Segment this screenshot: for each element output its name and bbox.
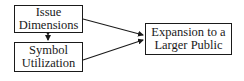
node-issue-dimensions: Issue Dimensions — [14, 5, 83, 33]
node-label-line: Utilization — [22, 57, 75, 70]
arrow-symbol-to-expansion — [83, 40, 143, 60]
node-label-line: Dimensions — [19, 19, 79, 32]
node-symbol-utilization: Symbol Utilization — [14, 42, 83, 72]
node-expansion-larger-public: Expansion to a Larger Public — [145, 23, 232, 55]
arrow-issue-to-expansion — [83, 19, 143, 35]
node-label-line: Larger Public — [154, 39, 222, 52]
